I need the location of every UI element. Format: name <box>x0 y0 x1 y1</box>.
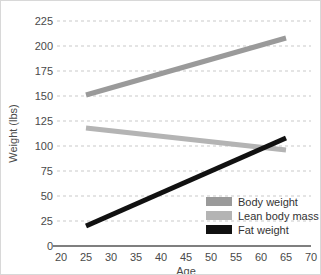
x-tick-label: 25 <box>80 251 92 263</box>
y-tick-label: 25 <box>41 215 53 227</box>
x-tick-label: 35 <box>130 251 142 263</box>
x-tick-label: 40 <box>155 251 167 263</box>
legend-swatch <box>206 197 232 206</box>
y-tick-label: 50 <box>41 190 53 202</box>
y-tick-label: 225 <box>35 15 53 27</box>
series-line <box>86 128 286 150</box>
x-tick-label: 65 <box>280 251 292 263</box>
y-tick-label: 75 <box>41 165 53 177</box>
y-tick-label: 100 <box>35 140 53 152</box>
x-tick-label: 55 <box>230 251 242 263</box>
y-axis-tick-labels: 0255075100125150175200225 <box>35 15 53 252</box>
x-axis-tick-labels: 2025303540455055606570 <box>55 251 317 263</box>
legend-label: Body weight <box>238 196 298 208</box>
y-tick-label: 175 <box>35 65 53 77</box>
chart-legend: Body weightLean body massFat weight <box>206 196 319 236</box>
y-tick-label: 0 <box>47 240 53 252</box>
legend-label: Fat weight <box>238 224 289 236</box>
legend-label: Lean body mass <box>238 210 319 222</box>
y-tick-label: 125 <box>35 115 53 127</box>
y-tick-label: 200 <box>35 40 53 52</box>
x-tick-label: 45 <box>180 251 192 263</box>
line-chart: 0255075100125150175200225 20253035404550… <box>1 1 321 275</box>
gridlines <box>57 21 311 221</box>
x-tick-label: 20 <box>55 251 67 263</box>
legend-swatch <box>206 225 232 234</box>
y-tick-label: 150 <box>35 90 53 102</box>
x-tick-label: 50 <box>205 251 217 263</box>
series-line <box>86 38 286 95</box>
x-axis-title: Age <box>176 265 196 275</box>
x-tick-label: 30 <box>105 251 117 263</box>
legend-swatch <box>206 211 232 220</box>
x-tick-label: 60 <box>255 251 267 263</box>
y-axis-title: Weight (lbs) <box>7 104 19 162</box>
x-tick-label: 70 <box>305 251 317 263</box>
chart-figure: 0255075100125150175200225 20253035404550… <box>0 0 321 275</box>
